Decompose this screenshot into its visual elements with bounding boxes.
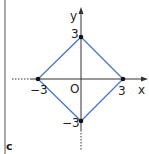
- x-axis-arrow-icon: [141, 77, 148, 82]
- origin-label: O: [70, 83, 79, 95]
- tick-label-x-pos: 3: [118, 85, 126, 97]
- vertex-point: [36, 77, 41, 82]
- tick-label-x-neg: −3: [30, 84, 48, 96]
- x-axis-label: x: [138, 84, 145, 96]
- y-axis-arrow-icon: [79, 7, 84, 14]
- vertex-point: [121, 77, 126, 82]
- tick-label-y-pos: 3: [71, 28, 79, 40]
- vertex-point: [79, 35, 84, 40]
- panel-label: c: [6, 140, 13, 153]
- coordinate-diagram: [0, 0, 149, 154]
- y-axis-label: y: [70, 10, 77, 22]
- tick-label-y-neg: −3: [62, 117, 80, 129]
